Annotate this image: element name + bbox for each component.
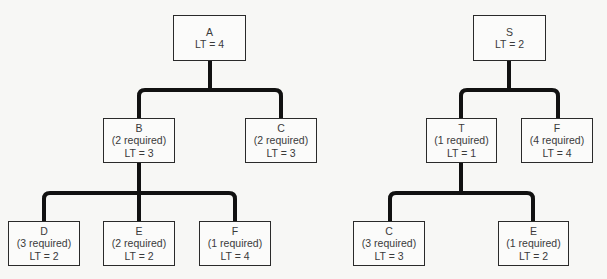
- node-item: S: [506, 26, 513, 39]
- node-f: F (1 required) LT = 4: [199, 221, 271, 266]
- node-item: A: [206, 26, 213, 39]
- node-lead-time: LT = 3: [266, 147, 295, 160]
- node-lead-time: LT = 2: [124, 250, 153, 263]
- node-item: F: [554, 122, 560, 135]
- node-item: B: [135, 122, 142, 135]
- node-item: E: [135, 225, 142, 238]
- node-lead-time: LT = 1: [447, 147, 476, 160]
- node-quantity: (2 required): [112, 237, 166, 250]
- node-quantity: (1 required): [208, 237, 262, 250]
- node-lead-time: LT = 4: [220, 250, 249, 263]
- node-quantity: (2 required): [254, 134, 308, 147]
- node-b: B (2 required) LT = 3: [103, 118, 175, 163]
- node-a: A LT = 4: [173, 15, 246, 61]
- node-lead-time: LT = 2: [519, 250, 548, 263]
- node-e: E (1 required) LT = 2: [498, 221, 569, 266]
- node-item: E: [530, 225, 537, 238]
- node-item: F: [232, 225, 238, 238]
- node-c: C (3 required) LT = 3: [353, 221, 425, 266]
- node-item: T: [458, 122, 464, 135]
- node-quantity: (1 required): [434, 134, 488, 147]
- node-t: T (1 required) LT = 1: [426, 118, 497, 163]
- node-lead-time: LT = 2: [29, 250, 58, 263]
- bill-of-materials-diagram: A LT = 4 B (2 required) LT = 3 C (2 requ…: [0, 0, 607, 279]
- node-item: D: [40, 225, 48, 238]
- node-c: C (2 required) LT = 3: [245, 118, 317, 163]
- node-lead-time: LT = 2: [495, 38, 524, 51]
- node-quantity: (3 required): [17, 237, 71, 250]
- node-lead-time: LT = 3: [374, 250, 403, 263]
- node-item: C: [385, 225, 393, 238]
- node-quantity: (4 required): [530, 134, 584, 147]
- node-d: D (3 required) LT = 2: [8, 221, 80, 266]
- node-f: F (4 required) LT = 4: [521, 118, 593, 163]
- node-quantity: (3 required): [362, 237, 416, 250]
- node-item: C: [277, 122, 285, 135]
- node-e: E (2 required) LT = 2: [103, 221, 175, 266]
- node-s: S LT = 2: [473, 15, 546, 61]
- node-lead-time: LT = 4: [542, 147, 571, 160]
- node-lead-time: LT = 3: [124, 147, 153, 160]
- node-quantity: (2 required): [112, 134, 166, 147]
- node-lead-time: LT = 4: [195, 38, 224, 51]
- node-quantity: (1 required): [506, 237, 560, 250]
